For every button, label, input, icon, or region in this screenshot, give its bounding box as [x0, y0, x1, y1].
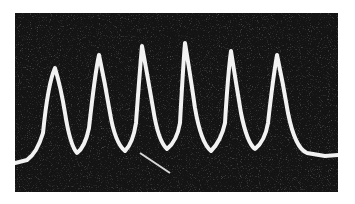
oscilloscope-photo — [15, 13, 338, 192]
waveform-trace — [15, 13, 338, 192]
